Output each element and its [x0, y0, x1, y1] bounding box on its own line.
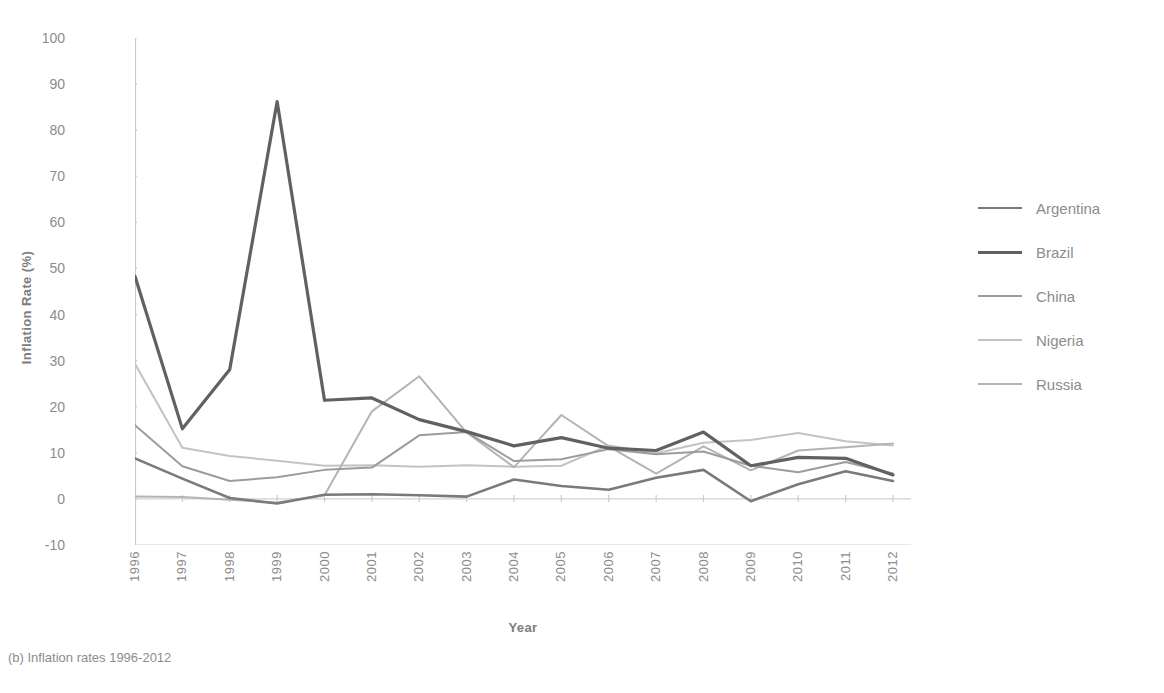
x-tick-2005: 2005: [553, 551, 571, 582]
legend-label: Brazil: [1036, 244, 1074, 261]
figure-caption: (b) Inflation rates 1996-2012: [8, 650, 171, 665]
legend-item-russia[interactable]: Russia: [978, 362, 1164, 406]
series-line-russia: [135, 376, 893, 502]
x-tick-2003: 2003: [459, 551, 477, 582]
legend-item-china[interactable]: China: [978, 274, 1164, 318]
legend-label: Russia: [1036, 376, 1082, 393]
x-tick-2002: 2002: [411, 551, 429, 582]
y-tick--10: -10: [21, 545, 65, 561]
x-tick-2012: 2012: [885, 551, 903, 582]
x-tick-1996: 1996: [127, 551, 145, 582]
series-line-china: [135, 425, 893, 481]
y-tick-70: 70: [21, 176, 65, 192]
legend-item-brazil[interactable]: Brazil: [978, 230, 1164, 274]
y-tick-30: 30: [21, 361, 65, 377]
x-tick-2004: 2004: [506, 551, 524, 582]
plot-svg: [135, 38, 911, 545]
x-tick-2010: 2010: [790, 551, 808, 582]
x-tick-2011: 2011: [838, 551, 856, 581]
legend-swatch-russia: [978, 383, 1022, 385]
series-line-nigeria: [135, 364, 893, 467]
y-tick-100: 100: [21, 38, 65, 54]
y-tick-80: 80: [21, 130, 65, 146]
y-tick-40: 40: [21, 315, 65, 331]
plot-area: [135, 38, 911, 545]
y-tick-20: 20: [21, 407, 65, 423]
legend-item-nigeria[interactable]: Nigeria: [978, 318, 1164, 362]
x-tick-2007: 2007: [648, 551, 666, 582]
y-tick-60: 60: [21, 222, 65, 238]
legend-swatch-argentina: [978, 207, 1022, 209]
x-tick-2006: 2006: [601, 551, 619, 582]
figure-root: Inflation Rate (%) 100908070605040302010…: [0, 0, 1164, 693]
x-tick-1998: 1998: [222, 551, 240, 582]
y-tick-90: 90: [21, 84, 65, 100]
x-tick-1999: 1999: [269, 551, 287, 582]
legend-label: Argentina: [1036, 200, 1100, 217]
y-tick-0: 0: [21, 499, 65, 515]
legend-label: China: [1036, 288, 1075, 305]
legend-swatch-nigeria: [978, 339, 1022, 341]
x-tick-2000: 2000: [317, 551, 335, 582]
x-tick-2008: 2008: [696, 551, 714, 582]
legend: ArgentinaBrazilChinaNigeriaRussia: [978, 186, 1164, 406]
legend-item-argentina[interactable]: Argentina: [978, 186, 1164, 230]
series-line-brazil: [135, 102, 893, 475]
y-tick-50: 50: [21, 268, 65, 284]
legend-swatch-brazil: [978, 251, 1022, 254]
y-tick-10: 10: [21, 453, 65, 469]
x-tick-2001: 2001: [364, 551, 382, 582]
x-tick-1997: 1997: [174, 551, 192, 582]
x-tick-2009: 2009: [743, 551, 761, 582]
x-axis-title: Year: [135, 620, 911, 635]
legend-swatch-china: [978, 295, 1022, 297]
legend-label: Nigeria: [1036, 332, 1084, 349]
line-chart: Inflation Rate (%) 100908070605040302010…: [0, 0, 1164, 693]
